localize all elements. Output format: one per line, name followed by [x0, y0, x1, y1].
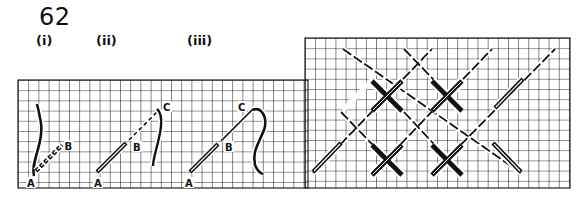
canvas-diagram: B A B C A B C A [0, 0, 586, 201]
point-label-a-i: A [27, 178, 35, 189]
point-label-b-iii: B [225, 142, 233, 153]
point-label-c-ii: C [163, 102, 170, 113]
point-label-a-iii: A [185, 178, 193, 189]
point-label-b-i: B [65, 141, 73, 152]
point-label-a-ii: A [94, 178, 102, 189]
point-label-b-ii: B [133, 142, 141, 153]
point-label-c-iii: C [238, 102, 245, 113]
